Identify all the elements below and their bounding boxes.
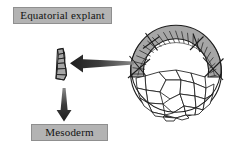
label-equatorial-explant-text: Equatorial explant [20, 10, 105, 21]
label-mesoderm-text: Mesoderm [45, 127, 94, 138]
figure-container: Equatorial explant Mesoderm [0, 0, 232, 149]
label-mesoderm: Mesoderm [31, 124, 108, 141]
label-equatorial-explant: Equatorial explant [13, 7, 112, 24]
